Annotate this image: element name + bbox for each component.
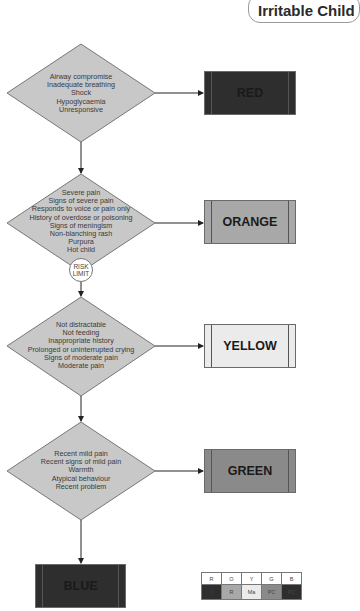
legend-header-y: Y (242, 573, 262, 585)
outcome-blue-box: BLUE (35, 564, 126, 608)
discriminator-list-orange: Severe pain Signs of severe pain Respond… (7, 189, 155, 255)
legend-header-o: O (222, 573, 242, 585)
outcome-orange-box: ORANGE (204, 200, 296, 244)
risk-limit-line1: RISK (73, 263, 88, 271)
priority-legend: R O Y G B I R Ma PC PC (201, 572, 302, 600)
legend-code-o: R (222, 585, 242, 600)
outcome-green-box: GREEN (204, 449, 296, 493)
discriminator-text: Moderate pain (7, 362, 155, 370)
legend-header-r: R (202, 573, 222, 585)
outcome-red-box: RED (204, 71, 296, 115)
discriminator-list-green: Recent mild pain Recent signs of mild pa… (7, 450, 155, 491)
legend-code-row: I R Ma PC PC (202, 585, 302, 600)
discriminator-text: Hot child (7, 246, 155, 254)
legend-header-b: B (282, 573, 302, 585)
discriminator-text: Recent problem (7, 483, 155, 491)
legend-code-g: PC (262, 585, 282, 600)
discriminator-list-red: Airway compromise Inadequate breathing S… (7, 73, 155, 114)
legend-code-y: Ma (242, 585, 262, 600)
discriminator-list-yellow: Not distractable Not feeding Inappropria… (7, 321, 155, 370)
legend-code-b: PC (282, 585, 302, 600)
outcome-yellow-box: YELLOW (204, 324, 296, 368)
legend-code-r: I (202, 585, 222, 600)
legend-header-g: G (262, 573, 282, 585)
discriminator-text: Unresponsive (7, 106, 155, 114)
legend-header-row: R O Y G B (202, 573, 302, 585)
risk-limit-line2: LIMIT (73, 270, 90, 278)
risk-limit-marker: RISK LIMIT (69, 258, 93, 282)
